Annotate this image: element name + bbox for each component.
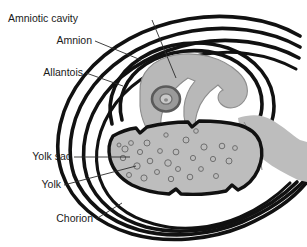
label-allantois: Allantois <box>43 66 83 78</box>
label-amniotic-cavity: Amniotic cavity <box>8 12 79 24</box>
diagram-canvas: Amniotic cavity Amnion Allantois Yolk sa… <box>0 0 307 247</box>
label-yolk: Yolk <box>42 178 62 190</box>
embryo-membranes-diagram: Amniotic cavity Amnion Allantois Yolk sa… <box>0 0 307 247</box>
embryo-eye-pupil <box>164 98 168 102</box>
label-chorion: Chorion <box>56 212 93 224</box>
labels-group: Amniotic cavity Amnion Allantois Yolk sa… <box>8 12 93 224</box>
yolk-sac-wall <box>109 121 262 194</box>
label-amnion: Amnion <box>56 34 92 46</box>
label-yolk-sac: Yolk sac <box>32 150 71 162</box>
yolk-sac-group <box>109 121 262 194</box>
